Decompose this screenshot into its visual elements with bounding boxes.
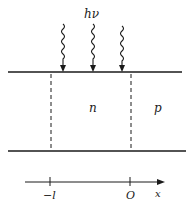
x-axis-arrow-icon (157, 179, 165, 185)
photon-arrows (62, 24, 124, 67)
region-p-label: p (154, 101, 162, 115)
tick-label-minus-l: −l (43, 189, 56, 202)
photon-arrow-3 (121, 26, 124, 67)
photon-label: hν (84, 7, 99, 21)
tick-label-zero: O (126, 189, 135, 202)
arrow-heads (60, 65, 125, 72)
arrow-head-icon (60, 65, 66, 72)
x-axis-label: x (155, 188, 161, 199)
arrow-head-icon (90, 65, 96, 72)
photon-arrow-2 (92, 24, 95, 67)
arrow-head-icon (119, 65, 125, 72)
pn-junction-diagram: hν n p −l O x (0, 0, 190, 211)
photon-arrow-1 (62, 24, 65, 67)
region-n-label: n (89, 101, 97, 115)
